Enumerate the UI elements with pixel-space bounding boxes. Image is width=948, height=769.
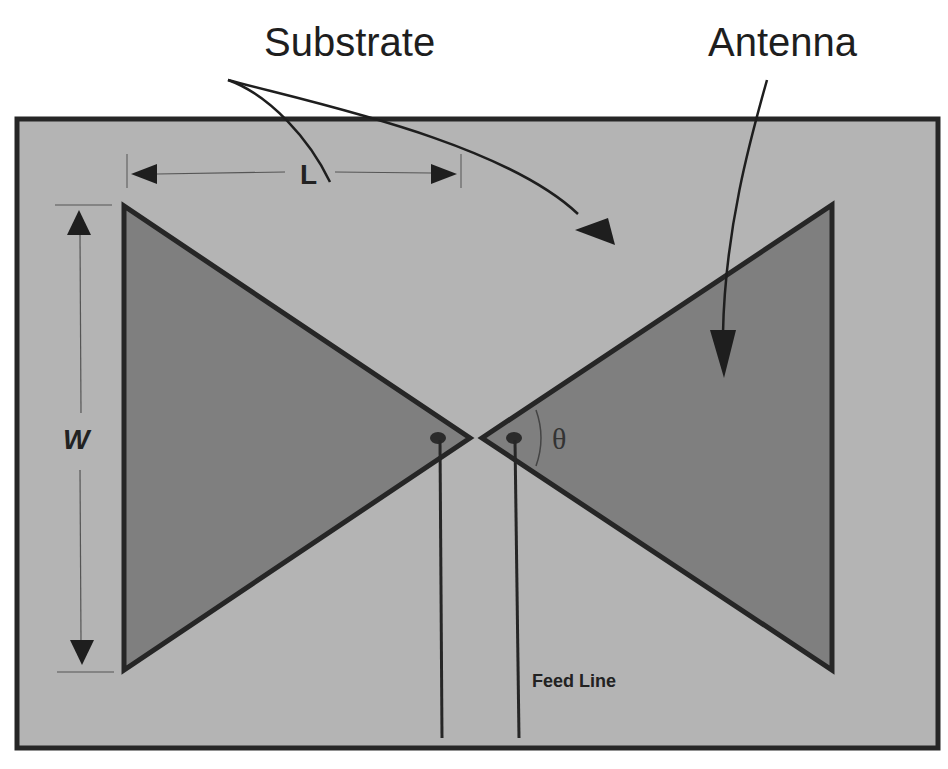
antenna-label: Antenna	[708, 20, 858, 64]
substrate-arrowhead-icon	[575, 218, 615, 245]
antenna-arrowhead-icon	[710, 330, 736, 378]
angle-label: θ	[552, 422, 566, 455]
substrate-label: Substrate	[264, 20, 435, 64]
width-label: W	[63, 424, 92, 455]
antenna-callout-arrow-line	[723, 80, 767, 333]
unused-80	[433, 80, 724, 350]
length-label: L	[300, 159, 317, 190]
feed-line-label: Feed Line	[532, 671, 616, 691]
final-annotations: Substrate Antenna L W θ Feed Line	[0, 0, 948, 769]
substrate-callout-arrow-line	[228, 80, 578, 214]
